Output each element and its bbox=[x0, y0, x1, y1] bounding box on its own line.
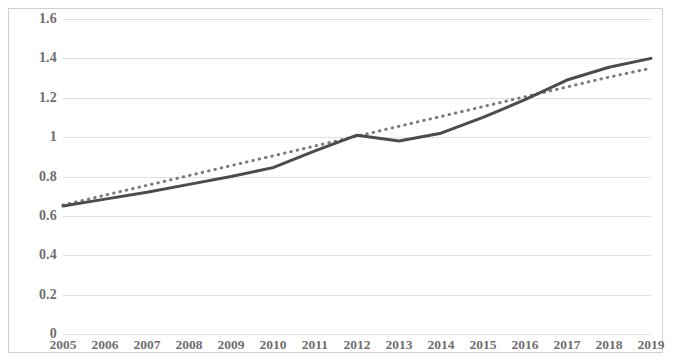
x-tick-label-2008: 2008 bbox=[176, 337, 203, 353]
chart-container: 00.20.40.60.811.21.41.6 2005200620072008… bbox=[8, 8, 663, 353]
plot-area bbox=[63, 19, 651, 334]
x-tick-label-2016: 2016 bbox=[512, 337, 539, 353]
x-tick-label-2013: 2013 bbox=[386, 337, 413, 353]
x-tick-label-2019: 2019 bbox=[638, 337, 665, 353]
x-axis: 2005200620072008200920102011201220132014… bbox=[63, 337, 651, 363]
y-tick-label: 0.4 bbox=[17, 247, 57, 263]
x-tick-label-2009: 2009 bbox=[218, 337, 245, 353]
x-tick-label-2007: 2007 bbox=[134, 337, 161, 353]
x-tick-label-2005: 2005 bbox=[50, 337, 77, 353]
x-tick-label-2006: 2006 bbox=[92, 337, 119, 353]
y-tick-label: 0.6 bbox=[17, 208, 57, 224]
x-tick-label-2010: 2010 bbox=[260, 337, 287, 353]
series-layer bbox=[63, 19, 651, 334]
x-tick-label-2018: 2018 bbox=[596, 337, 623, 353]
y-tick-label: 0.8 bbox=[17, 169, 57, 185]
gridline-0 bbox=[63, 334, 651, 335]
x-tick-label-2015: 2015 bbox=[470, 337, 497, 353]
x-tick-label-2017: 2017 bbox=[554, 337, 581, 353]
y-tick-label: 1.6 bbox=[17, 11, 57, 27]
y-tick-label: 1.2 bbox=[17, 90, 57, 106]
y-tick-label: 1 bbox=[17, 129, 57, 145]
x-tick-label-2014: 2014 bbox=[428, 337, 455, 353]
y-tick-label: 0.2 bbox=[17, 287, 57, 303]
x-tick-label-2012: 2012 bbox=[344, 337, 371, 353]
y-axis: 00.20.40.60.811.21.41.6 bbox=[9, 19, 57, 334]
y-tick-label: 1.4 bbox=[17, 50, 57, 66]
x-tick-label-2011: 2011 bbox=[302, 337, 328, 353]
